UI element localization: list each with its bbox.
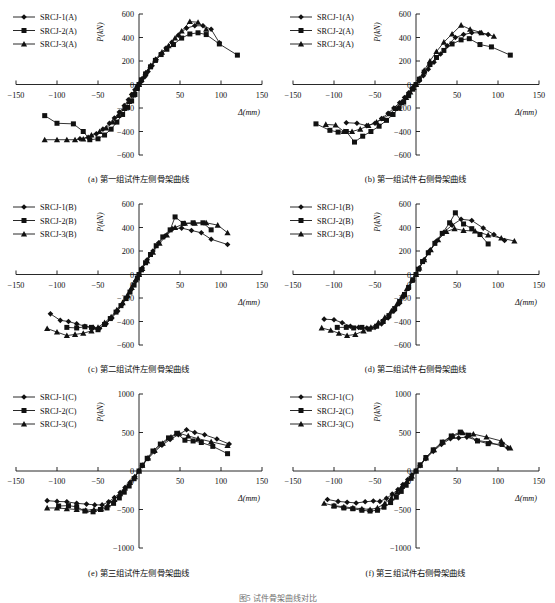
y-tick-label: −500 bbox=[117, 506, 134, 515]
data-point-marker bbox=[352, 331, 358, 337]
legend-marker bbox=[298, 204, 304, 210]
x-tick-label: 150 bbox=[533, 477, 545, 486]
data-point-marker bbox=[96, 136, 101, 141]
data-point-marker bbox=[475, 438, 480, 443]
data-point-marker bbox=[441, 48, 446, 53]
data-point-marker bbox=[313, 121, 318, 126]
x-tick-label: −100 bbox=[49, 91, 66, 100]
data-point-marker bbox=[321, 316, 327, 322]
data-series bbox=[56, 431, 230, 515]
legend-label: SRCJ-1(A) bbox=[40, 13, 77, 22]
legend-marker bbox=[299, 408, 304, 413]
chart-panel-c: −150−100−50050100150−600−400−20002004006… bbox=[0, 190, 277, 380]
y-tick-label: −1000 bbox=[113, 544, 134, 553]
x-tick-label: 150 bbox=[256, 281, 268, 290]
data-point-marker bbox=[351, 325, 356, 330]
y-tick-label: 0 bbox=[130, 271, 134, 280]
data-point-marker bbox=[354, 120, 360, 126]
x-tick-label: −100 bbox=[49, 477, 66, 486]
legend-label: SRCJ-1(A) bbox=[317, 13, 354, 22]
y-tick-label: 200 bbox=[399, 247, 411, 256]
x-tick-label: 50 bbox=[176, 281, 184, 290]
x-tick-label: −50 bbox=[369, 477, 382, 486]
data-point-marker bbox=[508, 53, 513, 58]
y-tick-label: 500 bbox=[399, 429, 411, 438]
data-point-marker bbox=[54, 499, 60, 505]
x-axis-title: Δ(mm) bbox=[237, 298, 260, 307]
data-point-marker bbox=[461, 221, 466, 226]
data-point-marker bbox=[388, 500, 393, 505]
legend-marker bbox=[21, 14, 27, 20]
panel-caption: (f) 第三组试件右侧骨架曲线 bbox=[277, 566, 554, 578]
plot-area: −150−100−50050100150−1000−50005001000Δ(m… bbox=[0, 380, 277, 566]
x-tick-label: 150 bbox=[256, 91, 268, 100]
data-point-marker bbox=[325, 497, 331, 503]
y-tick-label: 600 bbox=[399, 200, 411, 209]
legend-marker bbox=[21, 394, 27, 400]
panel-caption: (d) 第二组试件右侧骨架曲线 bbox=[277, 362, 554, 374]
skeleton-curve-chart: −150−100−50050100150−600−400−20002004006… bbox=[0, 0, 277, 172]
panel-caption: (e) 第三组试件左侧骨架曲线 bbox=[0, 566, 277, 578]
x-axis-title: Δ(mm) bbox=[237, 494, 260, 503]
y-tick-label: 600 bbox=[399, 10, 411, 19]
data-point-marker bbox=[458, 22, 464, 28]
panel-caption: (c) 第二组试件左侧骨架曲线 bbox=[0, 362, 277, 374]
data-point-marker bbox=[209, 227, 214, 232]
data-point-marker bbox=[224, 230, 230, 236]
data-point-marker bbox=[235, 53, 240, 58]
x-tick-label: −50 bbox=[92, 281, 105, 290]
data-point-marker bbox=[323, 121, 329, 127]
x-tick-label: 150 bbox=[533, 281, 545, 290]
data-point-marker bbox=[489, 44, 494, 49]
y-axis-title: P(kN) bbox=[373, 212, 382, 233]
data-point-marker bbox=[352, 140, 357, 145]
data-series bbox=[44, 427, 232, 508]
data-point-marker bbox=[467, 36, 472, 41]
chart-legend: SRCJ-1(C)SRCJ-2(C)SRCJ-3(C) bbox=[290, 393, 354, 429]
y-tick-label: 1000 bbox=[395, 390, 411, 399]
data-point-marker bbox=[87, 137, 92, 142]
plot-area: −150−100−50050100150−600−400−20002004006… bbox=[0, 190, 277, 362]
legend-marker bbox=[298, 14, 304, 20]
skeleton-curve-chart: −150−100−50050100150−1000−50005001000Δ(m… bbox=[0, 380, 277, 566]
x-tick-label: −150 bbox=[285, 91, 302, 100]
legend-label: SRCJ-1(B) bbox=[317, 203, 354, 212]
y-axis-title: P(kN) bbox=[96, 212, 105, 233]
data-point-marker bbox=[48, 311, 54, 317]
x-tick-label: −150 bbox=[8, 477, 25, 486]
x-tick-label: 50 bbox=[176, 477, 184, 486]
y-tick-label: 400 bbox=[399, 224, 411, 233]
y-axis-title: P(kN) bbox=[96, 402, 105, 423]
data-point-marker bbox=[447, 220, 452, 225]
data-point-marker bbox=[336, 130, 341, 135]
legend-label: SRCJ-1(B) bbox=[40, 203, 77, 212]
skeleton-curve-chart: −150−100−50050100150−600−400−20002004006… bbox=[277, 0, 554, 172]
legend-label: SRCJ-2(A) bbox=[317, 27, 354, 36]
data-series bbox=[313, 36, 512, 144]
chart-panel-d: −150−100−50050100150−600−400−20002004006… bbox=[277, 190, 554, 380]
data-point-marker bbox=[208, 236, 214, 242]
data-point-marker bbox=[335, 325, 340, 330]
legend-marker bbox=[21, 204, 27, 210]
y-tick-label: 400 bbox=[122, 34, 134, 43]
data-point-marker bbox=[57, 318, 63, 324]
data-point-marker bbox=[109, 127, 114, 132]
y-axis-title: P(kN) bbox=[373, 22, 382, 43]
legend-label: SRCJ-2(C) bbox=[40, 407, 77, 416]
data-point-marker bbox=[187, 19, 193, 25]
y-tick-label: 600 bbox=[122, 200, 134, 209]
data-point-marker bbox=[461, 32, 467, 38]
y-tick-label: −500 bbox=[394, 506, 411, 515]
y-tick-label: −600 bbox=[117, 341, 134, 350]
data-point-marker bbox=[434, 55, 439, 60]
data-point-marker bbox=[456, 435, 462, 441]
y-tick-label: 500 bbox=[122, 429, 134, 438]
chart-panel-a: −150−100−50050100150−600−400−20002004006… bbox=[0, 0, 277, 190]
chart-legend: SRCJ-1(A)SRCJ-2(A)SRCJ-3(A) bbox=[13, 13, 77, 49]
legend-label: SRCJ-2(C) bbox=[317, 407, 354, 416]
data-point-marker bbox=[344, 499, 350, 505]
y-tick-label: −600 bbox=[394, 341, 411, 350]
data-point-marker bbox=[344, 325, 349, 330]
chart-panel-f: −150−100−50050100150−1000−50005001000Δ(m… bbox=[277, 380, 554, 585]
x-tick-label: −150 bbox=[285, 477, 302, 486]
